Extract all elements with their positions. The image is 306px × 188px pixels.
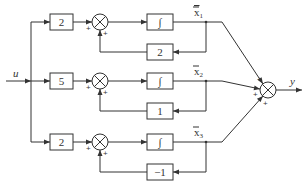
input-label: u: [13, 67, 19, 79]
output-signal: y: [276, 75, 302, 93]
row-2: 5 + + ∫ x2 1: [31, 65, 260, 119]
svg-text:−1: −1: [154, 166, 166, 178]
row-1: 2 + + ∫ x1 2: [31, 6, 263, 84]
svg-text:+: +: [86, 24, 91, 33]
svg-text:+: +: [263, 99, 268, 108]
output-label: y: [289, 75, 295, 87]
svg-text:2: 2: [59, 136, 65, 148]
svg-text:+: +: [103, 149, 108, 158]
svg-text:1: 1: [157, 105, 163, 117]
svg-text:+: +: [103, 29, 108, 38]
sum-junction-3: [92, 134, 108, 150]
svg-text:+: +: [257, 75, 262, 84]
svg-text:+: +: [253, 90, 258, 99]
svg-text:2: 2: [59, 16, 65, 28]
block-diagram: u 2 + + ∫ x1 2: [0, 0, 306, 188]
state-label-3: x3: [194, 126, 204, 140]
input-signal: u: [6, 67, 31, 84]
state-label-2: x2: [194, 65, 204, 79]
svg-text:+: +: [103, 88, 108, 97]
svg-text:+: +: [86, 83, 91, 92]
state-label-1: x1: [194, 6, 204, 20]
sum-junction-1: [92, 14, 108, 30]
sum-junction-2: [92, 73, 108, 89]
svg-text:5: 5: [59, 75, 65, 87]
output-sum-junction: [260, 82, 276, 98]
svg-text:+: +: [86, 144, 91, 153]
svg-text:2: 2: [157, 46, 163, 58]
